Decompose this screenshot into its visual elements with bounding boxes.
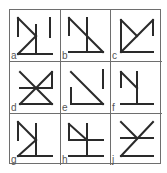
option-cell-c[interactable]: c [111, 10, 162, 62]
option-label-f: f [112, 103, 115, 113]
figure-stroke [71, 72, 103, 104]
figure-stroke [121, 122, 137, 138]
option-label-h: h [62, 155, 68, 165]
figure-stroke [121, 20, 137, 36]
figure-stroke [121, 72, 137, 88]
figure-f-drawing [111, 62, 162, 113]
option-label-e: e [62, 103, 68, 113]
figure-g-drawing [10, 114, 60, 165]
figure-stroke [18, 36, 36, 54]
figure-d-drawing [10, 62, 60, 113]
figure-b-drawing [61, 10, 110, 61]
figure-stroke [18, 122, 36, 140]
option-cell-f[interactable]: f [111, 62, 162, 114]
figure-stroke [18, 18, 36, 36]
option-label-g: g [11, 155, 17, 165]
figure-h-drawing [61, 114, 110, 165]
option-cell-e[interactable]: e [61, 62, 111, 114]
figure-e-drawing [61, 62, 110, 113]
figure-stroke [18, 140, 36, 156]
figure-option-grid: a b c d e f g h j [9, 9, 161, 164]
option-label-c: c [112, 51, 117, 61]
figure-a-drawing [10, 10, 60, 61]
option-label-d: d [11, 103, 17, 113]
figure-j-drawing [111, 114, 162, 165]
option-cell-g[interactable]: g [10, 114, 61, 165]
option-cell-b[interactable]: b [61, 10, 111, 62]
option-cell-d[interactable]: d [10, 62, 61, 114]
option-cell-j[interactable]: j [111, 114, 162, 165]
option-label-a: a [11, 51, 17, 61]
option-label-b: b [62, 51, 68, 61]
option-label-j: j [112, 155, 114, 165]
figure-stroke [69, 124, 87, 140]
figure-c-drawing [111, 10, 162, 61]
option-cell-h[interactable]: h [61, 114, 111, 165]
option-cell-a[interactable]: a [10, 10, 61, 62]
